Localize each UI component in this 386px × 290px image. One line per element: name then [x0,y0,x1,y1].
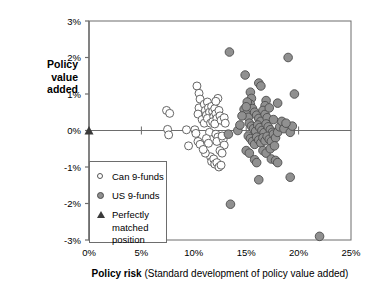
data-point-can [166,109,174,117]
legend-label-matched-3: position [112,234,145,245]
data-point-can [182,126,190,134]
data-point-can [217,161,225,169]
data-point-us [242,102,251,111]
data-point-us [254,175,263,184]
data-point-can [221,119,229,127]
x-axis-title-rest: (Standard development of policy value ad… [142,268,349,279]
data-point-us [315,232,324,241]
data-point-us [273,99,282,108]
data-point-us [282,119,291,128]
x-tick-label: 0% [82,247,96,258]
data-point-us [290,90,299,99]
data-point-can [212,97,220,105]
data-point-us [273,158,282,167]
data-point-can [165,131,173,139]
plot-area: -3%-2%-1%0%1%2%3%0%5%10%15%20%25% [0,0,386,290]
legend-label-us: US 9-funds [112,190,160,201]
data-point-us [236,121,245,130]
y-tick-label: 0% [67,125,81,136]
filled-circle-icon [97,192,104,199]
y-tick-label: -2% [64,198,81,209]
y-tick-label: 1% [67,89,81,100]
open-circle-icon [97,173,103,179]
x-tick-label: 15% [237,247,257,258]
data-point-can [185,142,193,150]
data-point-can [218,149,226,157]
data-point-can [193,82,201,90]
y-tick-label: -1% [64,162,81,173]
x-tick-label: 25% [341,247,361,258]
data-point-can [192,129,200,137]
x-tick-label: 10% [184,247,204,258]
data-point-us [241,71,250,80]
x-axis-title: Policy risk (Standard development of pol… [60,268,380,281]
legend-label-matched-1: Perfectly [112,209,149,220]
legend-label-matched-2: matched [112,222,148,233]
data-point-us [226,200,235,209]
data-point-us [284,53,293,62]
data-point-us [224,130,233,139]
data-point-us [269,115,278,124]
data-point-us [270,142,279,151]
data-point-us [252,158,261,167]
y-tick-label: 3% [67,16,81,27]
y-tick-label: -3% [64,235,81,246]
x-tick-label: 5% [135,247,149,258]
data-point-us [257,82,266,91]
data-point-us [238,112,247,121]
x-axis-title-bold: Policy risk [92,268,142,279]
data-point-can [199,145,207,153]
data-point-us [286,173,295,182]
data-point-us [265,104,274,113]
scatter-chart: Policy value added -3%-2%-1%0%1%2%3%0%5%… [0,0,386,290]
y-tick-label: 2% [67,52,81,63]
data-point-us [225,48,234,57]
legend: Can 9-funds US 9-funds Perfectly matched… [89,161,167,243]
legend-label-can: Can 9-funds [112,171,164,182]
triangle-icon [97,211,105,218]
x-tick-label: 20% [289,247,309,258]
